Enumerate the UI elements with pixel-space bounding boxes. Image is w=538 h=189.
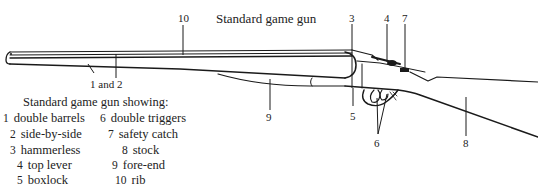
legend-number: 9: [112, 159, 118, 171]
fore-end-shape: [218, 74, 345, 86]
legend-label: hammerless: [21, 143, 81, 157]
legend-label: side-by-side: [21, 127, 82, 141]
callout-6: 6: [374, 137, 380, 149]
callout-8: 8: [463, 137, 469, 149]
legend-item: 9fore-end: [112, 158, 165, 173]
legend-number: 8: [122, 144, 128, 156]
legend-number: 2: [10, 128, 16, 140]
callout-9: 9: [266, 111, 272, 123]
legend-item: 2side-by-side: [10, 127, 82, 142]
legend-number: 5: [17, 174, 23, 186]
legend-label: double barrels: [14, 111, 85, 125]
legend-label: fore-end: [123, 158, 165, 172]
stock-bottom: [345, 86, 538, 137]
legend-number: 7: [108, 128, 114, 140]
legend-item: 7safety catch: [108, 127, 178, 142]
legend-number: 6: [100, 112, 106, 124]
callout-3: 3: [349, 12, 355, 24]
legend-item: 6double triggers: [100, 111, 186, 126]
callout-5: 5: [350, 110, 356, 122]
diagram-title: Standard game gun: [216, 11, 316, 27]
legend-label: stock: [133, 143, 159, 157]
barrel-underside: [10, 64, 345, 78]
stock-top: [410, 72, 538, 82]
rib-line: [10, 50, 352, 52]
callout-7: 7: [402, 12, 408, 24]
callout-1-and-2: 1 and 2: [90, 78, 122, 90]
legend-title: Standard game gun showing:: [23, 95, 168, 110]
legend-item: 10rib: [115, 173, 145, 188]
legend-label: top lever: [28, 158, 72, 172]
leader-1and2-b: [88, 64, 94, 73]
leader-6a: [377, 98, 378, 134]
legend-label: double triggers: [111, 111, 186, 125]
callout-4: 4: [384, 12, 390, 24]
legend-item: 4top lever: [17, 158, 72, 173]
legend-label: safety catch: [119, 127, 178, 141]
legend-label: boxlock: [28, 173, 68, 187]
legend-number: 4: [17, 159, 23, 171]
legend-item: 5boxlock: [17, 173, 68, 188]
legend-number: 10: [115, 174, 127, 186]
callout-10: 10: [178, 12, 189, 24]
legend-item: 3hammerless: [10, 143, 80, 158]
legend-number: 1: [3, 112, 9, 124]
trigger-front: [370, 90, 380, 102]
legend-item: 1double barrels: [3, 111, 85, 126]
legend-number: 3: [10, 144, 16, 156]
gun-diagram: Standard game gun 10 3 4 7 1 and 2 9 5 6…: [0, 0, 538, 189]
legend-label: rib: [132, 173, 146, 187]
legend-item: 8stock: [122, 143, 159, 158]
